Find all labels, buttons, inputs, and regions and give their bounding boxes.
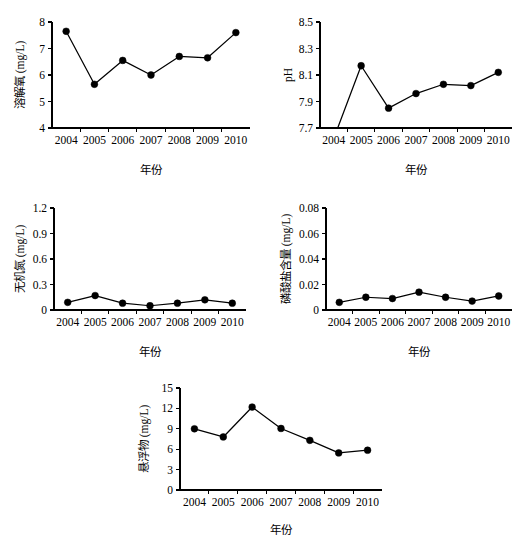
- y-tick-label: 0: [167, 484, 173, 496]
- x-tick-label: 2006: [111, 134, 134, 146]
- data-point-marker: [148, 72, 155, 79]
- x-tick-label: 2006: [111, 316, 134, 328]
- data-point-marker: [201, 296, 208, 303]
- y-tick-label: 8.1: [299, 69, 314, 81]
- x-tick-label: 2007: [270, 496, 293, 508]
- x-tick-label: 2008: [298, 496, 321, 508]
- data-point-marker: [336, 299, 343, 306]
- data-point-marker: [278, 425, 285, 432]
- data-point-marker: [92, 292, 99, 299]
- y-tick-label: 8.5: [299, 16, 314, 28]
- y-tick-label: 15: [162, 382, 174, 394]
- x-tick-label: 2008: [434, 316, 457, 328]
- x-tick-label: 2005: [83, 134, 106, 146]
- x-axis-title: 年份: [405, 163, 428, 176]
- x-tick-label: 2010: [224, 134, 247, 146]
- chart-axes: [54, 208, 246, 310]
- x-axis-title: 年份: [270, 523, 293, 536]
- y-tick-label: 7.7: [299, 122, 314, 134]
- chart-axes: [180, 388, 382, 490]
- x-tick-label: 2010: [487, 134, 510, 146]
- data-point-marker: [364, 447, 371, 454]
- y-tick-label: 12: [162, 402, 174, 414]
- chart-panel-ph: 7.77.98.18.38.52004200520062007200820092…: [268, 8, 520, 186]
- data-point-marker: [249, 404, 256, 411]
- suspended-solids-chart: 036912152004200520062007200820092010年份悬浮…: [130, 372, 398, 544]
- data-point-marker: [362, 294, 369, 301]
- x-tick-label: 2006: [381, 316, 404, 328]
- data-point-marker: [469, 298, 476, 305]
- inorganic-nitrogen-chart: 00.30.60.91.2200420052006200720082009201…: [8, 186, 260, 368]
- data-point-marker: [91, 81, 98, 88]
- y-axis-title: pH: [282, 68, 295, 82]
- x-axis-title: 年份: [139, 345, 162, 358]
- y-axis-title: 磷酸盐含量 (mg/L): [279, 214, 293, 305]
- y-tick-label: 0.9: [33, 228, 48, 240]
- x-tick-label: 2007: [405, 134, 428, 146]
- data-point-marker: [64, 299, 71, 306]
- data-point-marker: [119, 300, 126, 307]
- x-tick-label: 2009: [327, 496, 350, 508]
- y-axis-title: 悬浮物 (mg/L): [137, 405, 151, 474]
- x-tick-label: 2006: [241, 496, 264, 508]
- y-tick-label: 0.04: [299, 253, 319, 265]
- y-tick-label: 0.02: [299, 279, 319, 291]
- ph-chart: 7.77.98.18.38.52004200520062007200820092…: [268, 8, 520, 186]
- chart-axes: [320, 22, 512, 128]
- series-line: [338, 66, 499, 128]
- x-tick-label: 2009: [461, 316, 484, 328]
- chart-panel-phosphate: 00.020.040.060.0820042005200620072008200…: [268, 186, 520, 368]
- data-point-marker: [204, 54, 211, 61]
- data-point-marker: [413, 90, 420, 97]
- x-tick-label: 2010: [221, 316, 244, 328]
- data-point-marker: [306, 437, 313, 444]
- phosphate-chart: 00.020.040.060.0820042005200620072008200…: [268, 186, 520, 368]
- y-tick-label: 0.6: [33, 253, 48, 265]
- x-tick-label: 2005: [350, 134, 373, 146]
- x-tick-label: 2004: [183, 496, 206, 508]
- y-tick-label: 6: [39, 69, 45, 81]
- y-tick-label: 1.2: [33, 202, 48, 214]
- dissolved-oxygen-chart: 456782004200520062007200820092010年份溶解氧 (…: [8, 8, 260, 186]
- x-tick-label: 2004: [56, 316, 79, 328]
- y-axis-title: 溶解氧 (mg/L): [13, 41, 27, 110]
- y-tick-label: 0.08: [299, 202, 319, 214]
- chart-panel-suspended-solids: 036912152004200520062007200820092010年份悬浮…: [130, 372, 398, 544]
- data-point-marker: [442, 294, 449, 301]
- y-tick-label: 0: [313, 304, 319, 316]
- x-tick-label: 2005: [212, 496, 235, 508]
- data-point-marker: [191, 425, 198, 432]
- y-tick-label: 7: [39, 43, 45, 55]
- y-tick-label: 0.3: [33, 279, 48, 291]
- data-point-marker: [63, 28, 70, 35]
- y-tick-label: 3: [167, 464, 173, 476]
- y-tick-label: 7.9: [299, 96, 314, 108]
- x-axis-title: 年份: [408, 345, 431, 358]
- data-point-marker: [467, 82, 474, 89]
- x-tick-label: 2009: [193, 316, 216, 328]
- data-point-marker: [220, 434, 227, 441]
- data-point-marker: [119, 57, 126, 64]
- x-tick-label: 2008: [432, 134, 455, 146]
- y-tick-label: 6: [167, 443, 173, 455]
- data-point-marker: [358, 62, 365, 69]
- data-point-marker: [174, 300, 181, 307]
- x-tick-label: 2008: [168, 134, 191, 146]
- y-tick-label: 8: [39, 16, 45, 28]
- x-tick-label: 2007: [408, 316, 431, 328]
- x-tick-label: 2007: [140, 134, 163, 146]
- y-tick-label: 5: [39, 96, 45, 108]
- data-point-marker: [232, 29, 239, 36]
- data-point-marker: [440, 81, 447, 88]
- x-tick-label: 2004: [322, 134, 345, 146]
- data-point-marker: [147, 302, 154, 309]
- x-tick-label: 2010: [487, 316, 510, 328]
- data-point-marker: [495, 293, 502, 300]
- chart-panel-inorganic-nitrogen: 00.30.60.91.2200420052006200720082009201…: [8, 186, 260, 368]
- y-tick-label: 4: [39, 122, 45, 134]
- multi-panel-figure: 456782004200520062007200820092010年份溶解氧 (…: [0, 0, 528, 544]
- data-point-marker: [229, 300, 236, 307]
- y-tick-label: 9: [167, 423, 173, 435]
- y-tick-label: 8.3: [299, 43, 314, 55]
- x-tick-label: 2004: [55, 134, 78, 146]
